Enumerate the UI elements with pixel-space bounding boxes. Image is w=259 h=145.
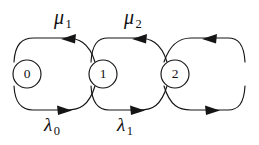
lower-edge-0-to-1: [14, 86, 95, 110]
mu-1-subscript: 1: [66, 17, 72, 31]
lambda-1-subscript: 1: [127, 124, 133, 138]
lower-arrowhead-2: [130, 106, 145, 116]
lambda-1-symbol: λ: [117, 114, 125, 135]
rate-label-lambda-0: λ0: [44, 115, 58, 134]
lambda-0-symbol: λ: [44, 114, 52, 135]
lower-arrowhead-1: [57, 106, 72, 116]
lower-edge-1-to-2: [91, 86, 167, 110]
upper-edge-1-to-0: [14, 38, 95, 62]
lower-edge-group: [14, 86, 245, 115]
rate-label-mu-2: μ2: [124, 7, 140, 27]
upper-edge-3-to-2: [164, 38, 245, 62]
mu-2-symbol: μ: [124, 6, 134, 28]
lower-edge-2-to-3: [164, 86, 245, 110]
node-state-2-label: 2: [172, 66, 179, 81]
upper-arrowhead-3: [202, 34, 217, 44]
node-group: 0 1 2: [13, 60, 189, 88]
lower-arrowhead-3: [205, 106, 220, 116]
upper-edge-2-to-1: [91, 38, 167, 62]
mu-1-symbol: μ: [54, 6, 64, 28]
node-state-0[interactable]: 0: [13, 60, 41, 88]
state-transition-diagram: 0 1 2 μ1 μ2 λ0 λ1: [0, 0, 259, 145]
rate-label-mu-1: μ1: [54, 7, 70, 27]
node-state-0-label: 0: [24, 66, 31, 81]
upper-arrowhead-1: [61, 34, 76, 44]
upper-arrowhead-2: [132, 34, 147, 44]
lambda-0-subscript: 0: [54, 124, 60, 138]
upper-edge-group: [14, 34, 245, 62]
rate-label-lambda-1: λ1: [117, 115, 131, 134]
node-state-1-label: 1: [100, 66, 107, 81]
node-state-1[interactable]: 1: [89, 60, 117, 88]
node-state-2[interactable]: 2: [161, 60, 189, 88]
mu-2-subscript: 2: [136, 17, 142, 31]
